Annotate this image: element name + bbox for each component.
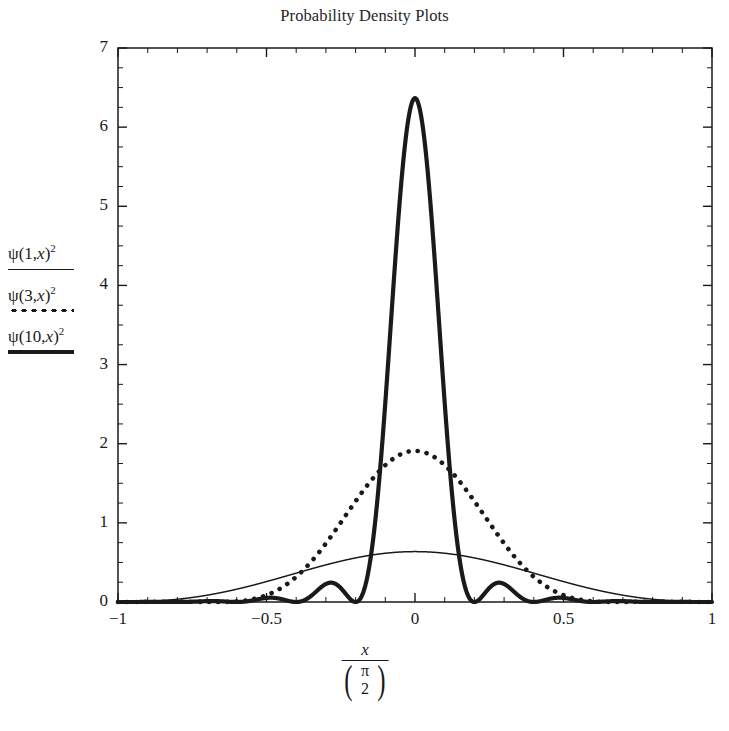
curve-psi-10 [118,98,712,602]
y-tick-label: 2 [82,433,108,453]
psi-symbol: ψ [8,285,19,304]
axis-frame [118,48,712,602]
legend-arg: (10, [19,327,46,346]
left-paren-glyph: ( [344,664,352,697]
legend-exponent: 2 [59,325,65,337]
legend-line-sample [8,266,74,274]
x-axis-label-denominator: ( π 2 ) [342,661,389,697]
legend-arg: (1, [19,244,37,263]
denominator-two: 2 [356,680,374,697]
x-tick-label: −1 [88,609,148,629]
legend-entry-2: ψ(3,x)2 [8,285,112,316]
x-tick-label: 1 [682,609,729,629]
legend-label: ψ(1,x)2 [8,243,112,263]
legend-entry-3: ψ(10,x)2 [8,326,112,357]
y-tick-label: 5 [82,195,108,215]
legend-entry-1: ψ(1,x)2 [8,243,112,274]
data-curves [118,98,712,602]
y-tick-label: 7 [82,37,108,57]
legend-line-dotted [8,308,74,313]
legend-variable: x [37,244,45,263]
x-axis-label: x ( π 2 ) [342,641,389,697]
chart-figure: Probability Density Plots 01234567 −1−0.… [0,0,729,731]
pi-symbol: π [356,663,374,680]
legend-label: ψ(3,x)2 [8,285,112,305]
x-tick-label: −0.5 [237,609,297,629]
legend-label: ψ(10,x)2 [8,326,112,346]
legend-variable: x [46,327,54,346]
legend-arg: (3, [19,285,37,304]
psi-symbol: ψ [8,244,19,263]
y-tick-label: 6 [82,116,108,136]
psi-symbol: ψ [8,327,19,346]
right-paren-glyph: ) [378,664,386,697]
x-tick-label: 0.5 [534,609,594,629]
legend-line-solid-thin [8,269,74,270]
y-tick-label: 0 [82,591,108,611]
chart-legend: ψ(1,x)2ψ(3,x)2ψ(10,x)2 [8,243,112,368]
curve-psi-3 [118,451,712,602]
x-tick-label: 0 [385,609,445,629]
legend-line-sample [8,349,74,357]
legend-line-solid-thick [8,350,74,354]
legend-variable: x [37,285,45,304]
y-tick-label: 1 [82,512,108,532]
pi-over-two-fraction: π 2 [355,663,375,697]
legend-exponent: 2 [50,242,56,254]
legend-exponent: 2 [50,284,56,296]
legend-line-sample [8,307,74,315]
